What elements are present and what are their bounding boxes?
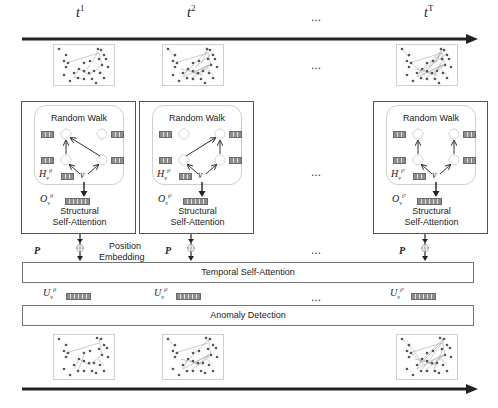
output-symbol: Ovt² xyxy=(158,193,171,206)
embedding-vector xyxy=(463,157,476,164)
output-u-vector-t1 xyxy=(66,293,91,300)
timeline-label-t2: t2 xyxy=(187,3,195,21)
embedding-vector xyxy=(393,157,406,164)
merge-arrow-1 xyxy=(73,234,87,262)
random-walk-graph xyxy=(374,102,489,202)
symbol-sup: t¹ xyxy=(49,168,52,174)
position-p-symbol-1: P xyxy=(34,245,40,256)
output-u-symbol-t1: Uvt¹ xyxy=(43,287,56,300)
embedding-vector xyxy=(229,131,242,138)
symbol-sub: v xyxy=(46,175,49,181)
random-walk-graph xyxy=(22,102,137,202)
output-symbol: Ovtᵀ xyxy=(392,193,406,206)
symbol-sup: t² xyxy=(168,193,171,199)
temporal-self-attention-label: Temporal Self-Attention xyxy=(201,267,295,277)
symbol-sub: v xyxy=(164,175,167,181)
embedding-vector xyxy=(229,157,242,164)
symbol-sup: t² xyxy=(167,168,170,174)
graph-snapshot-t1-top xyxy=(53,44,115,86)
random-walk-graph xyxy=(140,102,255,202)
timeline-label-t1: t1 xyxy=(76,3,84,21)
structural-self-attention-label: Structural Self-Attention xyxy=(140,206,255,228)
bottom-timeline-arrow xyxy=(20,383,480,395)
graph-snapshot-t1-bottom xyxy=(53,334,115,380)
embedding-vector xyxy=(463,131,476,138)
position-p-symbol-2: P xyxy=(165,245,171,256)
time-sup: T xyxy=(428,3,434,13)
hidden-symbol: Hvtᵀ xyxy=(391,168,405,181)
output-u-vector-t2 xyxy=(176,293,201,300)
graph-snapshot-t2-bottom xyxy=(162,334,224,380)
hidden-vector xyxy=(179,173,192,180)
node-v-symbol: v xyxy=(80,169,84,180)
graph-snapshot-t2-top xyxy=(162,44,224,86)
anomaly-detection-label: Anomaly Detection xyxy=(210,310,286,320)
node-v-symbol: v xyxy=(198,169,202,180)
graph-snapshot-tT-top xyxy=(396,44,458,86)
label-line2: Self-Attention xyxy=(374,217,489,228)
symbol-sup: t¹ xyxy=(50,193,53,199)
output-symbol: Ovt¹ xyxy=(40,193,53,206)
structural-self-attention-block-t1: Random Walk Hvt¹ v Ovt¹ Structural Self-… xyxy=(21,101,136,234)
graph-snapshot-tT-bottom xyxy=(396,334,458,380)
label-line2: Self-Attention xyxy=(22,217,137,228)
label-line1: Position xyxy=(99,241,145,252)
position-ellipsis: ... xyxy=(311,243,321,257)
structural-self-attention-block-t2: Random Walk Hvt² v Ovt² Structural Self-… xyxy=(139,101,254,234)
embedding-vector xyxy=(159,157,172,164)
symbol-sub: v xyxy=(50,294,53,300)
output-vector xyxy=(65,198,90,205)
output-vector xyxy=(417,198,442,205)
merge-arrow-T xyxy=(418,234,432,262)
output-u-vector-tT xyxy=(411,293,436,300)
structural-self-attention-block-tT: Random Walk Hvtᵀ v Ovtᵀ Structural Self-… xyxy=(373,101,488,234)
symbol-sup: tᵀ xyxy=(401,168,405,174)
anomaly-detection-box: Anomaly Detection xyxy=(22,305,474,326)
hidden-vector xyxy=(61,173,74,180)
label-line2: Self-Attention xyxy=(140,217,255,228)
merge-arrow-2 xyxy=(184,234,198,262)
label-line1: Structural xyxy=(140,206,255,217)
symbol-sub: v xyxy=(398,175,401,181)
structural-self-attention-label: Structural Self-Attention xyxy=(374,206,489,228)
time-sup: 1 xyxy=(80,3,85,13)
structural-ellipsis: ... xyxy=(311,165,321,179)
embedding-vector xyxy=(159,131,172,138)
structural-self-attention-label: Structural Self-Attention xyxy=(22,206,137,228)
embedding-vector xyxy=(111,157,124,164)
embedding-vector xyxy=(393,131,406,138)
temporal-self-attention-box: Temporal Self-Attention xyxy=(22,262,474,283)
symbol-sub: v xyxy=(397,294,400,300)
hidden-symbol: Hvt² xyxy=(157,168,170,181)
hidden-vector xyxy=(413,173,426,180)
node-v-symbol: v xyxy=(432,169,436,180)
hidden-symbol: Hvt¹ xyxy=(39,168,52,181)
output-vector xyxy=(183,198,208,205)
symbol-sup: tᵀ xyxy=(402,193,406,199)
output-u-symbol-tT: Uvtᵀ xyxy=(390,287,404,300)
symbol-sup: t² xyxy=(164,287,167,293)
label-line1: Structural xyxy=(374,206,489,217)
embedding-vector xyxy=(41,157,54,164)
label-line1: Structural xyxy=(22,206,137,217)
embedding-vector xyxy=(111,131,124,138)
embedding-vector xyxy=(41,131,54,138)
symbol-sub: v xyxy=(161,294,164,300)
position-embedding-label: Position Embedding xyxy=(99,241,145,263)
output-u-symbol-t2: Uvt² xyxy=(154,287,167,300)
output-ellipsis: ... xyxy=(311,290,321,304)
timeline-label-tT: tT xyxy=(424,3,433,21)
symbol-sup: t¹ xyxy=(53,287,56,293)
position-p-symbol-T: P xyxy=(399,245,405,256)
snapshot-ellipsis-top: ... xyxy=(311,58,321,72)
symbol-sup: tᵀ xyxy=(400,287,404,293)
time-sup: 2 xyxy=(191,3,196,13)
timeline-ellipsis: ... xyxy=(311,10,321,24)
